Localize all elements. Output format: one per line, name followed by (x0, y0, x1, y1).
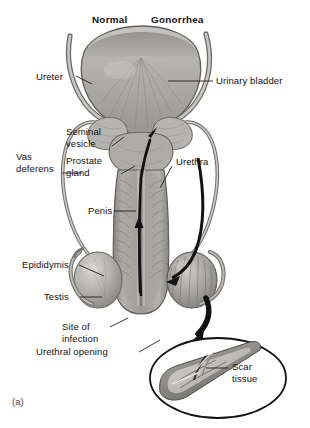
label-site-of-infection: Site of infection (62, 321, 98, 344)
inset-cross-section (150, 338, 286, 418)
column-header-normal: Normal (92, 14, 128, 26)
panel-label: (a) (12, 396, 24, 407)
label-urinary-bladder: Urinary bladder (216, 75, 282, 87)
label-epididymis: Epididymis (22, 259, 69, 271)
label-scar-tissue: Scar tissue (232, 361, 257, 384)
label-urethral-opening: Urethral opening (36, 346, 108, 358)
label-urethra: Urethra (176, 156, 208, 168)
leader-site-of-infection (110, 318, 128, 327)
label-prostate-gland: Prostate gland (66, 155, 102, 178)
anatomy-figure (0, 0, 310, 428)
label-penis: Penis (88, 205, 112, 217)
label-testis: Testis (44, 291, 69, 303)
label-seminal-vesicle: Seminal vesicle (66, 126, 101, 149)
column-header-gonorrhea: Gonorrhea (151, 14, 204, 26)
label-ureter: Ureter (36, 71, 63, 83)
label-vas-deferens: Vas deferens (16, 151, 54, 174)
leader-urethral-opening (139, 340, 160, 352)
